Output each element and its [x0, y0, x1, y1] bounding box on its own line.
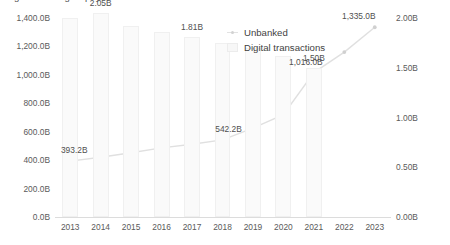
line-label-2023: 1,335.0B [342, 11, 376, 21]
y-axis-left: 0.0B200.0B400.0B600.0B800.0B1,000.0B1,20… [0, 0, 50, 245]
bar-2013[interactable] [62, 18, 78, 217]
x-tick-2018: 2018 [213, 222, 232, 232]
y-tick-right-1: 0.50B [396, 162, 418, 172]
chart-legend: Unbanked Digital transactions [223, 23, 329, 57]
y-tick-left-7: 1,400.0B [16, 13, 50, 23]
bar-label-2017: 1.81B [181, 22, 203, 32]
y-tick-right-4: 2.00B [396, 13, 418, 23]
y-tick-left-0: 0.0B [33, 212, 50, 222]
x-tick-2013: 2013 [61, 222, 80, 232]
y-tick-right-2: 1.00B [396, 113, 418, 123]
x-tick-2016: 2016 [152, 222, 171, 232]
x-tick-2022: 2022 [335, 222, 354, 232]
bar-2014[interactable] [93, 13, 109, 217]
line-point-2023[interactable] [373, 25, 377, 29]
x-tick-2019: 2019 [244, 222, 263, 232]
bar-marker-icon [227, 43, 238, 52]
line-label-2018: 542.2B [215, 124, 242, 134]
bar-2020[interactable] [275, 56, 291, 217]
bar-2017[interactable] [184, 37, 200, 217]
y-tick-left-4: 800.0B [23, 98, 50, 108]
bar-2019[interactable] [245, 48, 261, 217]
x-tick-2020: 2020 [274, 222, 293, 232]
bar-label-2014: 2.05B [90, 0, 112, 8]
chart-title: Figure 4.3: Digital payment inclusion an… [6, 0, 321, 2]
x-axis-baseline [55, 217, 391, 218]
bar-2016[interactable] [154, 32, 170, 217]
line-point-2022[interactable] [342, 50, 346, 54]
legend-item-digital-transactions[interactable]: Digital transactions [227, 40, 325, 55]
legend-label-unbanked: Unbanked [244, 27, 288, 38]
y-tick-left-5: 1,000.0B [16, 70, 50, 80]
legend-item-unbanked[interactable]: Unbanked [227, 25, 325, 40]
y-tick-left-2: 400.0B [23, 155, 50, 165]
line-label-2013: 393.2B [61, 145, 88, 155]
x-tick-2015: 2015 [122, 222, 141, 232]
y-tick-left-6: 1,200.0B [16, 41, 50, 51]
y-tick-left-3: 600.0B [23, 127, 50, 137]
bar-2015[interactable] [123, 26, 139, 217]
x-tick-2021: 2021 [305, 222, 324, 232]
x-tick-2023: 2023 [365, 222, 384, 232]
chart-container: Figure 4.3: Digital payment inclusion an… [0, 0, 450, 245]
y-tick-right-0: 0.00B [396, 212, 418, 222]
legend-label-digital-transactions: Digital transactions [244, 42, 325, 53]
bar-2021[interactable] [306, 68, 322, 217]
y-tick-right-3: 1.50B [396, 63, 418, 73]
line-marker-icon [227, 28, 238, 37]
y-axis-right: 0.00B0.50B1.00B1.50B2.00B [396, 0, 450, 245]
x-tick-2014: 2014 [91, 222, 110, 232]
x-tick-2017: 2017 [183, 222, 202, 232]
line-label-2021: 1,016.0B [289, 57, 323, 67]
y-tick-left-1: 200.0B [23, 184, 50, 194]
